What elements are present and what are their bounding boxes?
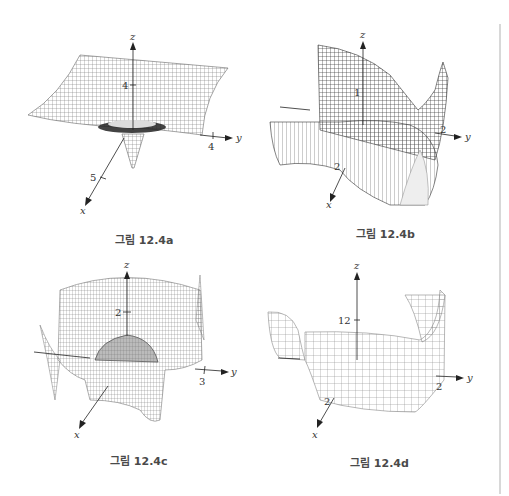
x-axis-label: x — [312, 429, 318, 440]
y-axis-label: y — [230, 366, 237, 377]
y-tick-label: 4 — [208, 141, 214, 152]
y-tick-label: 2 — [436, 381, 442, 392]
z-tick-label: 2 — [115, 307, 121, 318]
caption-12-4d: 그림 12.4d — [350, 454, 409, 470]
figure-12-4b: z 1 y 2 x 2 그림 12.4b — [250, 0, 500, 250]
caption-12-4c: 그림 12.4c — [110, 452, 168, 468]
surface-plot-a: z 4 y 4 x 5 — [0, 0, 250, 250]
z-axis-label: z — [353, 260, 360, 271]
x-tick-label: 2 — [324, 396, 330, 407]
x-axis-label: x — [80, 205, 86, 216]
z-tick-label: 12 — [338, 315, 351, 326]
y-axis-label: y — [464, 131, 471, 142]
figure-12-4d: z 12 y 2 x 2 그림 12.4d — [250, 250, 500, 496]
x-axis-label: x — [74, 429, 80, 440]
page-divider — [499, 24, 501, 494]
z-tick-label: 1 — [354, 87, 360, 98]
z-axis-label: z — [359, 29, 366, 40]
surface-plot-b: z 1 y 2 x 2 — [250, 0, 500, 250]
z-tick-label: 4 — [122, 80, 128, 91]
x-tick-label: 2 — [334, 161, 340, 172]
x-axis-label: x — [326, 199, 332, 210]
caption-12-4a: 그림 12.4a — [115, 231, 173, 247]
figure-12-4a: z 4 y 4 x 5 그림 12.4a — [0, 0, 250, 250]
y-tick-label: 3 — [199, 376, 205, 387]
z-axis-label: z — [123, 259, 130, 270]
caption-12-4b: 그림 12.4b — [356, 225, 415, 241]
y-tick-label: 2 — [440, 124, 446, 135]
figure-12-4c: z 2 y 3 x 그림 12.4c — [0, 250, 250, 496]
z-axis-label: z — [129, 31, 136, 42]
y-axis-label: y — [235, 132, 242, 143]
y-axis-label: y — [466, 372, 473, 383]
x-tick-label: 5 — [90, 172, 96, 183]
